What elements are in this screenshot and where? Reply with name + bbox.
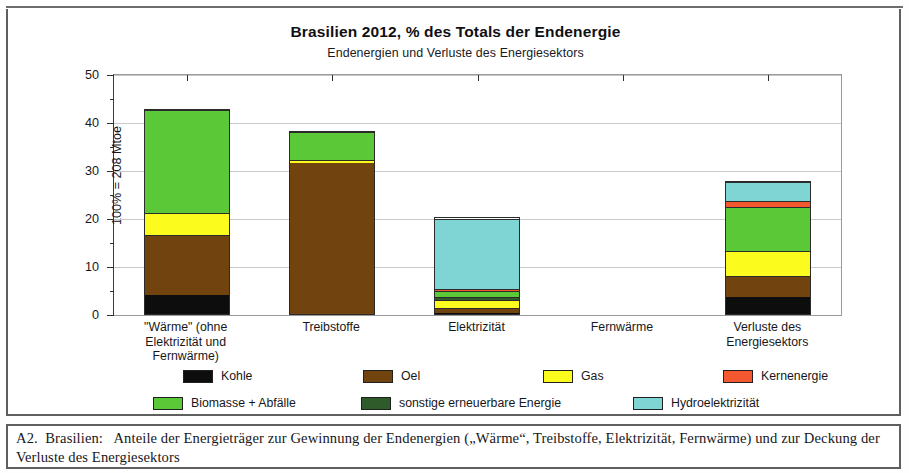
legend-label: sonstige erneuerbare Energie (399, 396, 561, 410)
x-axis-label: Fernwärme (542, 320, 702, 335)
bar-segment[interactable] (290, 160, 374, 162)
y-tick-label: 0 (39, 308, 99, 322)
x-axis-label: Treibstoffe (251, 320, 411, 335)
bar-segment[interactable] (726, 182, 810, 201)
caption-box: A2. Brasilien: Anteile der Energieträger… (6, 424, 901, 469)
x-label-line: Elektrizität und (106, 335, 266, 350)
bar-slot (696, 75, 841, 315)
bar-segment[interactable] (726, 251, 810, 276)
stacked-bar[interactable] (434, 217, 520, 315)
legend-item[interactable]: Biomasse + Abfälle (153, 396, 296, 410)
y-tick-label: 30 (39, 164, 99, 178)
chart-subtitle: Endenergien und Verluste des Energiesekt… (8, 46, 903, 60)
x-tick-mark (332, 75, 333, 81)
bar-segment[interactable] (726, 297, 810, 314)
bar-segment[interactable] (435, 291, 519, 297)
y-tick-mark (107, 219, 114, 220)
x-label-line: Elektrizität (397, 320, 557, 335)
y-tick-mark (107, 75, 114, 76)
stacked-bar[interactable] (289, 131, 375, 315)
y-tick-mark (107, 171, 114, 172)
legend-swatch (153, 397, 183, 410)
legend-swatch (633, 397, 663, 410)
bar-segment[interactable] (145, 110, 229, 213)
figure-page: Brasilien 2012, % des Totals der Endener… (0, 0, 909, 473)
bar-segment[interactable] (145, 295, 229, 314)
y-tick-mark (107, 123, 114, 124)
chart-panel: Brasilien 2012, % des Totals der Endener… (6, 9, 901, 416)
legend-item[interactable]: Hydroelektrizität (633, 396, 759, 410)
legend-label: Kernenergie (761, 369, 828, 383)
chart-legend: KohleOelGasKernenergieBiomasse + Abfälle… (113, 369, 842, 421)
bar-segment[interactable] (435, 300, 519, 308)
legend-label: Hydroelektrizität (671, 396, 759, 410)
bar-slot (259, 75, 404, 315)
y-tick-label: 10 (39, 260, 99, 274)
legend-item[interactable]: Oel (363, 369, 420, 383)
legend-swatch (363, 370, 393, 383)
chart-title: Brasilien 2012, % des Totals der Endener… (8, 23, 903, 41)
x-axis-label: Elektrizität (397, 320, 557, 335)
legend-label: Oel (401, 369, 420, 383)
x-tick-mark (478, 75, 479, 81)
y-tick-label: 40 (39, 116, 99, 130)
legend-item[interactable]: Kohle (183, 369, 252, 383)
x-axis-label: Verluste desEnergiesektors (687, 320, 847, 349)
legend-swatch (183, 370, 213, 383)
stacked-bar[interactable] (144, 109, 230, 315)
x-tick-mark (768, 75, 769, 81)
legend-swatch (543, 370, 573, 383)
y-tick-mark (107, 315, 114, 316)
legend-label: Kohle (221, 369, 252, 383)
legend-swatch (723, 370, 753, 383)
figure-caption: A2. Brasilien: Anteile der Energieträger… (16, 429, 891, 467)
bar-segment[interactable] (726, 207, 810, 250)
x-axis-label: "Wärme" (ohneElektrizität undFernwärme) (106, 320, 266, 364)
x-tick-mark (187, 75, 188, 81)
x-label-line: "Wärme" (ohne (106, 320, 266, 335)
caption-label: A2. Brasilien: (16, 430, 113, 446)
bar-slot (405, 75, 550, 315)
y-tick-label: 50 (39, 68, 99, 82)
x-label-line: Energiesektors (687, 335, 847, 350)
bar-segment[interactable] (435, 308, 519, 313)
legend-item[interactable]: sonstige erneuerbare Energie (361, 396, 561, 410)
x-axis-labels: "Wärme" (ohneElektrizität undFernwärme)T… (113, 320, 842, 370)
bar-segment[interactable] (435, 297, 519, 299)
bar-segment[interactable] (290, 132, 374, 161)
x-label-line: Verluste des (687, 320, 847, 335)
legend-item[interactable]: Gas (543, 369, 604, 383)
bar-segment[interactable] (726, 201, 810, 207)
x-tick-mark (623, 75, 624, 81)
y-tick-mark (107, 267, 114, 268)
legend-label: Gas (581, 369, 604, 383)
bar-segment[interactable] (435, 289, 519, 291)
x-label-line: Treibstoffe (251, 320, 411, 335)
bar-segment[interactable] (435, 219, 519, 290)
caption-text: Anteile der Energieträger zur Gewinnung … (16, 430, 880, 465)
stacked-bar[interactable] (725, 181, 811, 315)
bar-segment[interactable] (290, 163, 374, 314)
scan-rule-top (6, 6, 903, 8)
x-label-line: Fernwärme (542, 320, 702, 335)
bar-segment[interactable] (726, 276, 810, 298)
legend-label: Biomasse + Abfälle (191, 396, 296, 410)
bar-segment[interactable] (145, 213, 229, 235)
legend-swatch (361, 397, 391, 410)
x-label-line: Fernwärme) (106, 349, 266, 364)
bar-segment[interactable] (145, 235, 229, 295)
bars-layer (114, 75, 841, 315)
plot-area: 100% = 208 Mtoe 01020304050 (113, 74, 842, 316)
legend-item[interactable]: Kernenergie (723, 369, 828, 383)
y-tick-label: 20 (39, 212, 99, 226)
bar-segment[interactable] (435, 313, 519, 314)
bar-slot (114, 75, 259, 315)
bar-slot (550, 75, 695, 315)
